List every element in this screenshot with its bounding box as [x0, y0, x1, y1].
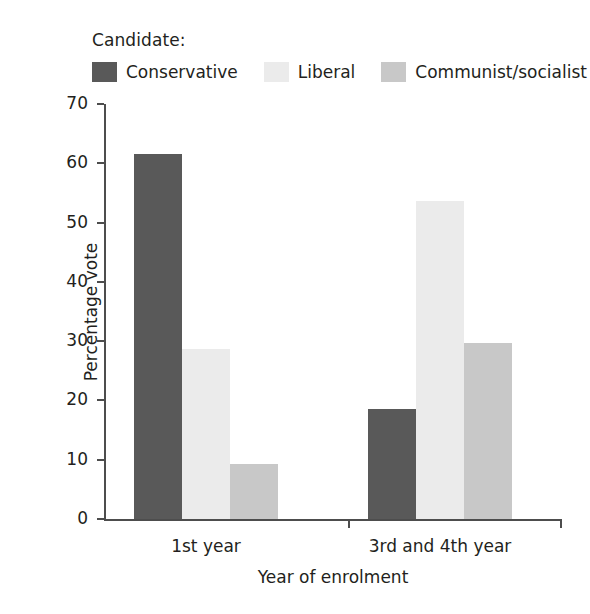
y-axis-tick	[97, 459, 104, 461]
legend-item-label: Liberal	[298, 62, 356, 82]
x-axis-title: Year of enrolment	[104, 567, 562, 587]
x-axis-category-label: 1st year	[171, 536, 241, 556]
y-axis-tick	[97, 103, 104, 105]
bar	[464, 343, 512, 519]
x-axis-category-label: 3rd and 4th year	[369, 536, 512, 556]
legend-swatch-icon	[381, 62, 406, 82]
y-axis-tick-label: 60	[28, 152, 88, 172]
legend-item-communist-socialist: Communist/socialist	[381, 62, 587, 82]
y-axis-line	[104, 104, 106, 519]
legend-item-label: Conservative	[126, 62, 238, 82]
y-axis-tick-label: 30	[28, 330, 88, 350]
y-axis-tick-label: 50	[28, 212, 88, 232]
y-axis-tick	[97, 399, 104, 401]
y-axis-tick	[97, 222, 104, 224]
bar-chart-figure: Candidate: Conservative Liberal Communis…	[0, 0, 590, 614]
y-axis-tick-label: 70	[28, 93, 88, 113]
x-axis-line	[104, 519, 562, 521]
legend-item-label: Communist/socialist	[415, 62, 587, 82]
bar	[368, 409, 416, 519]
legend-swatch-icon	[264, 62, 289, 82]
x-axis-tick	[560, 519, 562, 528]
y-axis-tick-label: 20	[28, 389, 88, 409]
y-axis-tick	[97, 518, 104, 520]
y-axis-tick-label: 10	[28, 449, 88, 469]
y-axis-title: Percentage vote	[81, 242, 101, 381]
legend-swatch-icon	[92, 62, 117, 82]
legend-item-liberal: Liberal	[264, 62, 356, 82]
legend-title: Candidate:	[92, 30, 186, 50]
y-axis-tick-label: 40	[28, 271, 88, 291]
bar	[182, 349, 230, 519]
bar	[416, 201, 464, 519]
legend-item-conservative: Conservative	[92, 62, 238, 82]
bar	[134, 154, 182, 519]
legend: Conservative Liberal Communist/socialist	[92, 62, 590, 82]
y-axis-tick	[97, 162, 104, 164]
plot-area: 010203040506070 1st year3rd and 4th year…	[104, 104, 562, 519]
bar	[230, 464, 278, 519]
x-axis-tick	[348, 519, 350, 528]
y-axis-tick-label: 0	[28, 508, 88, 528]
